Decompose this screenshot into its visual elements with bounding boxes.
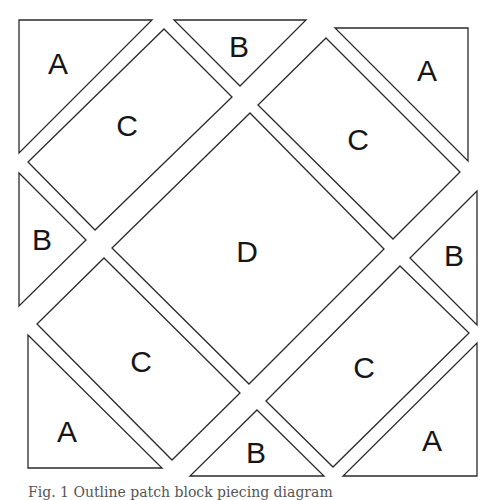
piece-label: A (57, 415, 77, 448)
figure-caption: Fig. 1 Outline patch block piecing diagr… (28, 484, 333, 500)
piece-label: C (130, 345, 152, 378)
piece-label: B (229, 30, 249, 63)
piece-label: B (32, 223, 52, 256)
piece-label: C (353, 351, 375, 384)
piece-label: B (444, 239, 464, 272)
piece-label: A (422, 424, 442, 457)
piece-label: D (236, 235, 258, 268)
piece-label: C (116, 109, 138, 142)
piece-label: C (347, 123, 369, 156)
piece-label: A (48, 47, 68, 80)
piece-label: B (246, 436, 266, 469)
piece-label: A (417, 54, 437, 87)
